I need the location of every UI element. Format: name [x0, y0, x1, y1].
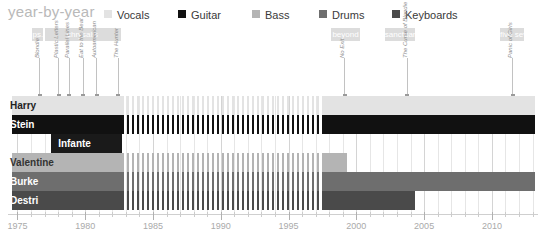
- member-row-burke[interactable]: Burke: [0, 172, 546, 191]
- legend-swatch-guitar: [178, 10, 186, 18]
- member-segment-hiatus: [122, 153, 324, 172]
- axis-tick-label: 1985: [143, 221, 163, 231]
- axis-tick-minor: [99, 212, 100, 217]
- member-segment-active: [324, 191, 415, 210]
- member-segment-active: [324, 172, 535, 191]
- legend-label: Vocals: [117, 9, 149, 21]
- axis-tick-major: [153, 212, 154, 220]
- axis-tick-minor: [329, 212, 330, 217]
- album-marker-line: [512, 58, 513, 96]
- member-segment-hiatus: [122, 115, 324, 134]
- album-marker-line: [96, 58, 97, 96]
- axis-tick-label: 2010: [482, 221, 502, 231]
- member-name-label: Destri: [10, 191, 38, 210]
- axis-tick-minor: [397, 212, 398, 217]
- axis-tick-minor: [465, 212, 466, 217]
- member-row-infante[interactable]: Infante: [0, 134, 546, 153]
- axis-tick-major: [85, 212, 86, 220]
- axis-line: [8, 214, 538, 215]
- legend-label: Bass: [265, 9, 289, 21]
- legend-swatch-keyboards: [392, 10, 400, 18]
- member-segment-hiatus: [122, 172, 324, 191]
- member-segment-active: [324, 96, 535, 115]
- album-marker-line: [58, 58, 59, 96]
- axis-tick-label: 2005: [414, 221, 434, 231]
- axis-tick-minor: [533, 212, 534, 217]
- member-name-label: Infante: [58, 134, 91, 153]
- member-row-valentine[interactable]: Valentine: [0, 153, 546, 172]
- legend-item-bass: Bass: [252, 5, 289, 21]
- album-title-label: The Curse of Blondie: [402, 2, 408, 58]
- axis-tick-minor: [31, 212, 32, 217]
- axis-tick-minor: [58, 212, 59, 217]
- axis-tick-minor: [167, 212, 168, 217]
- axis-tick-minor: [383, 212, 384, 217]
- album-marker-line: [39, 58, 40, 96]
- album-marker-line: [407, 58, 408, 96]
- axis-tick-minor: [316, 212, 317, 217]
- member-row-destri[interactable]: Destri: [0, 191, 546, 210]
- album-title-label: Parallel Lines: [64, 22, 70, 58]
- record-label-beyond: beyond: [331, 28, 361, 41]
- legend-swatch-vocals: [104, 10, 112, 18]
- axis-tick-major: [356, 212, 357, 220]
- axis-tick-minor: [343, 212, 344, 217]
- legend-label: Guitar: [191, 9, 221, 21]
- album-title-label: Panic of Girls: [507, 22, 513, 58]
- axis-tick-label: 1990: [211, 221, 231, 231]
- axis-tick-minor: [505, 212, 506, 217]
- album-title-label: No Exit: [339, 39, 345, 58]
- album-marker-line: [69, 58, 70, 96]
- timeline-plot: HarrySteinInfanteValentineBurkeDestri: [0, 96, 546, 212]
- axis-tick-minor: [275, 212, 276, 217]
- album-title-label: Blondie: [34, 38, 40, 58]
- member-row-harry[interactable]: Harry: [0, 96, 546, 115]
- member-name-label: Burke: [10, 172, 38, 191]
- member-segment-hiatus: [122, 96, 324, 115]
- axis-tick-minor: [112, 212, 113, 217]
- album-marker-line: [118, 58, 119, 96]
- axis-tick-minor: [207, 212, 208, 217]
- legend-swatch-bass: [252, 10, 260, 18]
- axis-tick-minor: [370, 212, 371, 217]
- axis-tick-minor: [194, 212, 195, 217]
- legend-item-drums: Drums: [319, 5, 364, 21]
- axis-tick-minor: [139, 212, 140, 217]
- axis-tick-label: 1975: [7, 221, 27, 231]
- axis-tick-minor: [261, 212, 262, 217]
- axis-tick-minor: [234, 212, 235, 217]
- axis-tick-minor: [478, 212, 479, 217]
- record-label-sanctuary: sanctuary: [385, 28, 415, 41]
- member-segment-active: [324, 153, 347, 172]
- axis-tick-minor: [411, 212, 412, 217]
- axis-tick-minor: [180, 212, 181, 217]
- axis-tick-major: [492, 212, 493, 220]
- album-marker-band: BlondiePlastic LettersParallel LinesEat …: [0, 41, 546, 96]
- member-name-label: Valentine: [10, 153, 54, 172]
- album-title-label: Eat to the Beat: [78, 18, 84, 58]
- legend-label: Drums: [332, 9, 364, 21]
- member-row-stein[interactable]: Stein: [0, 115, 546, 134]
- axis-tick-label: 1980: [75, 221, 95, 231]
- axis-tick-minor: [72, 212, 73, 217]
- axis-tick-minor: [451, 212, 452, 217]
- legend-swatch-drums: [319, 10, 327, 18]
- axis-tick-label: 2000: [346, 221, 366, 231]
- x-axis: 19751980198519901995200020052010: [0, 212, 546, 237]
- member-segment-active: [324, 115, 535, 134]
- axis-tick-minor: [519, 212, 520, 217]
- axis-tick-minor: [302, 212, 303, 217]
- album-title-label: Autoamerican: [91, 21, 97, 58]
- member-name-label: Stein: [10, 115, 34, 134]
- legend-item-vocals: Vocals: [104, 5, 149, 21]
- album-marker-line: [344, 58, 345, 96]
- axis-tick-major: [17, 212, 18, 220]
- axis-tick-minor: [438, 212, 439, 217]
- axis-tick-minor: [45, 212, 46, 217]
- member-name-label: Harry: [10, 96, 36, 115]
- axis-tick-major: [221, 212, 222, 220]
- axis-tick-major: [424, 212, 425, 220]
- axis-tick-major: [289, 212, 290, 220]
- album-title-label: Plastic Letters: [53, 20, 59, 58]
- member-segment-hiatus: [122, 191, 324, 210]
